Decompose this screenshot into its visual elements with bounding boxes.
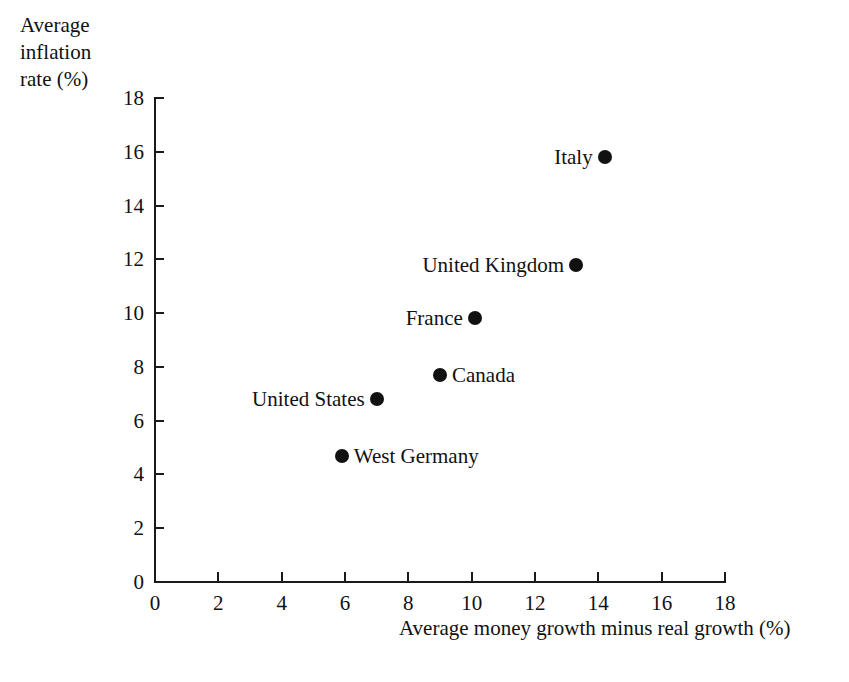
x-tick-label: 4	[276, 591, 287, 616]
y-tick	[156, 258, 164, 260]
y-tick	[156, 97, 164, 99]
data-point-marker[interactable]	[335, 449, 349, 463]
x-tick	[534, 572, 536, 581]
y-axis-title-line-1: Average	[20, 12, 91, 39]
y-tick-label: 18	[123, 86, 144, 111]
scatter-chart-figure: Average inflation rate (%) 0246810121416…	[0, 0, 849, 682]
x-tick	[724, 572, 726, 581]
y-axis-title-line-2: inflation	[20, 39, 91, 66]
data-point-marker[interactable]	[433, 368, 447, 382]
x-tick-label: 8	[403, 591, 414, 616]
x-tick-label: 2	[213, 591, 224, 616]
x-tick	[471, 572, 473, 581]
x-tick-label: 16	[651, 591, 672, 616]
data-point-label: West Germany	[354, 443, 479, 468]
x-tick-label: 18	[715, 591, 736, 616]
y-tick-label: 8	[134, 354, 145, 379]
data-point-marker[interactable]	[468, 311, 482, 325]
x-tick	[597, 572, 599, 581]
data-point-marker[interactable]	[370, 392, 384, 406]
data-point-label: Italy	[554, 145, 592, 170]
data-point-marker[interactable]	[598, 150, 612, 164]
y-tick	[156, 151, 164, 153]
y-tick-label: 0	[134, 570, 145, 595]
data-point-label: United Kingdom	[422, 252, 564, 277]
y-tick	[156, 205, 164, 207]
y-axis-title-line-3: rate (%)	[20, 66, 91, 93]
x-tick-label: 6	[340, 591, 351, 616]
y-tick-label: 4	[134, 462, 145, 487]
y-tick-label: 12	[123, 247, 144, 272]
y-axis-title: Average inflation rate (%)	[20, 12, 91, 93]
x-tick-label: 12	[525, 591, 546, 616]
x-tick	[217, 572, 219, 581]
y-tick-label: 6	[134, 408, 145, 433]
y-axis-line	[154, 98, 156, 582]
y-tick-label: 14	[123, 193, 144, 218]
x-tick-label: 14	[588, 591, 609, 616]
y-tick	[156, 420, 164, 422]
y-tick	[156, 312, 164, 314]
x-tick-label: 10	[461, 591, 482, 616]
y-tick	[156, 366, 164, 368]
y-tick	[156, 527, 164, 529]
x-tick	[407, 572, 409, 581]
data-point-label: United States	[252, 387, 365, 412]
y-tick-label: 10	[123, 301, 144, 326]
x-axis-title: Average money growth minus real growth (…	[399, 616, 791, 641]
y-tick-label: 2	[134, 516, 145, 541]
y-tick-label: 16	[123, 139, 144, 164]
data-point-marker[interactable]	[569, 258, 583, 272]
data-point-label: Canada	[452, 362, 515, 387]
y-tick	[156, 581, 164, 583]
x-tick	[281, 572, 283, 581]
x-tick	[661, 572, 663, 581]
x-tick	[344, 572, 346, 581]
data-point-label: France	[406, 306, 463, 331]
plot-area: 024681012141618 024681012141618 ItalyUni…	[155, 98, 725, 582]
y-tick	[156, 473, 164, 475]
x-axis-line	[154, 581, 726, 583]
x-tick-label: 0	[150, 591, 161, 616]
x-tick	[154, 572, 156, 581]
